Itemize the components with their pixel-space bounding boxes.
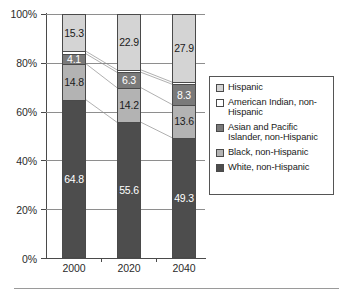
x-axis-line — [46, 258, 206, 259]
bar-label-2000-asian: 4.1 — [67, 54, 81, 65]
segment-2040-asian-pacific-islander-non-hispanic[interactable]: 8.3 — [172, 84, 196, 104]
y-tick-label-40: 40% — [16, 155, 37, 167]
legend-item-asian-pacific-islander-non-hispanic[interactable]: Asian and Pacific Islander, non-Hispanic — [216, 122, 329, 143]
segment-2000-white-non-hispanic[interactable]: 64.8 — [62, 100, 86, 258]
bar-label-2040-hispanic: 27.9 — [174, 43, 194, 54]
segment-2020-hispanic[interactable]: 22.9 — [117, 14, 141, 70]
bar-label-2020-hispanic: 22.9 — [119, 37, 139, 48]
legend-item-white-non-hispanic[interactable]: White, non-Hispanic — [216, 162, 329, 173]
legend-swatch-white-icon — [216, 164, 224, 172]
legend-swatch-asian-icon — [216, 124, 224, 132]
segment-2020-white-non-hispanic[interactable]: 55.6 — [117, 122, 141, 258]
segment-2040-black-non-hispanic[interactable]: 13.6 — [172, 105, 196, 138]
legend-item-american-indian-non-hispanic[interactable]: American Indian, non-Hispanic — [216, 97, 329, 118]
y-tick-20 — [41, 209, 46, 210]
bar-2020[interactable]: 55.6 14.2 6.3 22.9 — [117, 14, 141, 258]
segment-2000-black-non-hispanic[interactable]: 14.8 — [62, 64, 86, 100]
legend-swatch-american-indian-icon — [216, 99, 224, 107]
bar-label-2020-asian: 6.3 — [122, 75, 136, 86]
segment-2000-hispanic[interactable]: 15.3 — [62, 14, 86, 51]
segment-2020-american-indian-non-hispanic[interactable] — [117, 70, 141, 72]
y-tick-label-60: 60% — [16, 106, 37, 118]
footer-divider — [14, 288, 339, 289]
legend-label-asian: Asian and Pacific Islander, non-Hispanic — [228, 122, 329, 143]
y-tick-100 — [41, 14, 46, 15]
legend-label-black: Black, non-Hispanic — [228, 147, 308, 158]
bar-label-2040-white: 49.3 — [174, 193, 194, 204]
x-axis-label-2040: 2040 — [159, 262, 209, 274]
segment-2020-black-non-hispanic[interactable]: 14.2 — [117, 88, 141, 123]
y-tick-40 — [41, 160, 46, 161]
chart-legend: Hispanic American Indian, non-Hispanic A… — [209, 76, 334, 195]
y-tick-60 — [41, 112, 46, 113]
y-axis-labels: 100% 80% 60% 40% 20% 0% — [0, 0, 44, 297]
x-axis-label-2020: 2020 — [104, 262, 154, 274]
x-tick-1 — [156, 258, 157, 262]
bar-label-2040-black: 13.6 — [174, 116, 194, 127]
bar-label-2000-hispanic: 15.3 — [64, 28, 84, 39]
x-tick-0 — [101, 258, 102, 262]
segment-2040-american-indian-non-hispanic[interactable] — [172, 82, 196, 84]
x-axis-label-2000: 2000 — [49, 262, 99, 274]
segment-2000-asian-pacific-islander-non-hispanic[interactable]: 4.1 — [62, 54, 86, 64]
y-tick-label-80: 80% — [16, 57, 37, 69]
y-tick-label-20: 20% — [16, 204, 37, 216]
stacked-bar-chart-figure: 100% 80% 60% 40% 20% 0% — [0, 0, 352, 297]
legend-item-black-non-hispanic[interactable]: Black, non-Hispanic — [216, 147, 329, 158]
legend-label-american-indian: American Indian, non-Hispanic — [228, 97, 329, 118]
y-tick-0 — [41, 258, 46, 259]
plot-area: 64.8 14.8 4.1 15.3 55.6 1 — [46, 14, 205, 258]
legend-label-white: White, non-Hispanic — [228, 162, 309, 173]
bar-2040[interactable]: 49.3 13.6 8.3 27.9 — [172, 14, 196, 258]
y-tick-label-100: 100% — [11, 8, 37, 20]
y-tick-80 — [41, 63, 46, 64]
legend-swatch-hispanic-icon — [216, 84, 224, 92]
y-tick-label-0: 0% — [22, 253, 37, 265]
bar-2000[interactable]: 64.8 14.8 4.1 15.3 — [62, 14, 86, 258]
segment-2020-asian-pacific-islander-non-hispanic[interactable]: 6.3 — [117, 72, 141, 87]
bar-label-2000-black: 14.8 — [64, 77, 84, 88]
legend-label-hispanic: Hispanic — [228, 82, 263, 93]
bar-label-2020-black: 14.2 — [119, 100, 139, 111]
bar-label-2040-asian: 8.3 — [177, 90, 191, 101]
legend-swatch-black-icon — [216, 149, 224, 157]
legend-item-hispanic[interactable]: Hispanic — [216, 82, 329, 93]
bar-label-2020-white: 55.6 — [119, 185, 139, 196]
segment-2000-american-indian-non-hispanic[interactable] — [62, 51, 86, 54]
segment-2040-white-non-hispanic[interactable]: 49.3 — [172, 138, 196, 258]
bar-label-2000-white: 64.8 — [64, 174, 84, 185]
segment-2040-hispanic[interactable]: 27.9 — [172, 14, 196, 82]
